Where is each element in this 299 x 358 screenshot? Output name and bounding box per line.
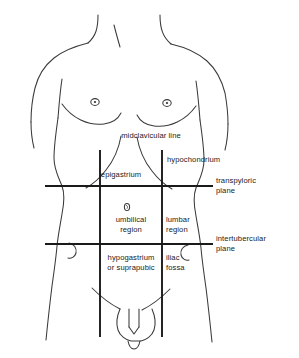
left-shoulder-line — [31, 43, 88, 122]
left-pectoral-line — [62, 104, 121, 124]
label-hypochondrium: hypochondrium — [167, 155, 247, 165]
label-transpyloric-plane: transpyloric plane — [216, 176, 298, 195]
glans-line — [129, 327, 139, 334]
sternal-notch-line — [114, 25, 120, 47]
label-epigastrium: epigastrium — [86, 170, 156, 180]
left-inguinal-crease-line — [92, 288, 120, 309]
label-hypogastrium: hypogastrium or suprapubic — [94, 253, 168, 272]
left-costal-margin-line — [86, 136, 121, 188]
label-intertubercular-plane: intertubercular plane — [216, 234, 298, 253]
umbilicus-icon — [124, 203, 129, 210]
neck-left-line — [88, 15, 98, 43]
scrotum-line — [128, 341, 140, 349]
left-arm-outer-line — [31, 122, 34, 148]
label-umbilical-region: umbilical region — [102, 215, 160, 234]
label-iliac-fossa: iliac fossa — [166, 253, 210, 272]
right-arm-outer-line — [225, 124, 228, 150]
torso-outline — [31, 15, 228, 349]
label-midclavicular-line: midclavicular line — [101, 131, 201, 141]
left-iliac-crease-line — [68, 243, 76, 258]
left-nipple-dot — [94, 101, 96, 103]
right-inguinal-crease-line — [142, 289, 170, 310]
left-axilla-line — [58, 79, 62, 118]
right-nipple-dot — [166, 102, 168, 104]
right-axilla-line — [196, 81, 200, 120]
label-lumbar-region: lumbar region — [166, 215, 216, 234]
right-pectoral-line — [137, 106, 196, 126]
anatomy-figure: midclavicular line hypochondrium epigast… — [0, 0, 299, 358]
left-flank-line — [46, 118, 64, 340]
neck-right-line — [160, 15, 171, 44]
umbilicus-inner-line — [126, 205, 127, 208]
genital-outline-line — [117, 309, 155, 341]
